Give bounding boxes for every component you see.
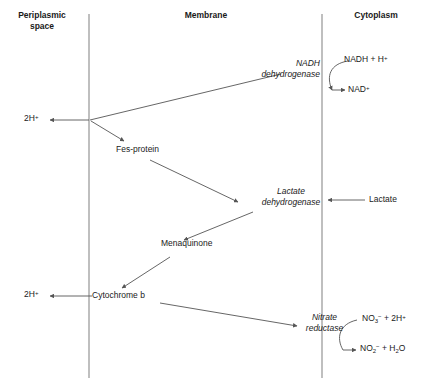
column-header-periplasmic-space: Periplasmic space — [0, 10, 84, 31]
arrow-junction-to-fes-protein — [91, 121, 124, 141]
enzyme-label-lactate-dehydrogenase: Lactate dehydrogenase — [257, 186, 325, 208]
proton-label-upper: 2H+ — [24, 113, 38, 124]
proton-label-lower: 2H+ — [24, 289, 38, 300]
substrate-label-lactate: Lactate — [369, 194, 397, 205]
column-header-membrane: Membrane — [92, 10, 320, 21]
arrow-menaquinone-to-cytochrome-b — [122, 257, 170, 288]
arrow-cytochrome-b-to-nitrate-reductase — [160, 303, 297, 326]
enzyme-label-nitrate-reductase: Nitrate reductase — [297, 312, 352, 334]
enzyme-label-nadh-dehydrogenase: NADH dehydrogenase — [250, 58, 320, 80]
arrow-nadh-dehydrogenase-to-junction — [90, 74, 281, 120]
carrier-label-cytochrome-b: Cytochrome b — [92, 290, 145, 301]
substrate-label-nitrite-water: NO2− + H2O — [360, 343, 405, 356]
electron-transport-diagram: Periplasmic space Membrane Cytoplasm NAD… — [0, 0, 430, 390]
arrow-fes-protein-to-lactate-dehydrogenase — [150, 160, 238, 202]
arrow-lactate-dehydrogenase-to-menaquinone — [184, 212, 253, 240]
column-header-cytoplasm: Cytoplasm — [324, 10, 428, 21]
carrier-label-fes-protein: Fes-protein — [116, 144, 159, 155]
substrate-label-nad-plus: NAD+ — [348, 84, 370, 95]
carrier-label-menaquinone: Menaquinone — [161, 238, 213, 249]
substrate-label-nitrate: NO3− + 2H+ — [362, 313, 406, 326]
substrate-label-nadh-h: NADH + H+ — [344, 54, 388, 65]
